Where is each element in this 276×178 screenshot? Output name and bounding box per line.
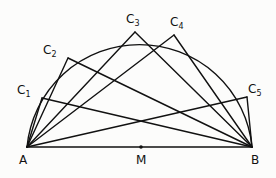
label-C2: C2 xyxy=(43,44,56,59)
chord-C5-B xyxy=(247,97,252,147)
semicircle-arc xyxy=(27,45,252,147)
label-C1: C1 xyxy=(17,84,30,99)
midpoint-M-dot xyxy=(139,145,143,149)
label-C3: C3 xyxy=(126,13,139,28)
label-C4: C4 xyxy=(170,16,183,31)
label-B: B xyxy=(251,154,259,166)
chord-C1-B xyxy=(42,98,252,147)
label-C5: C5 xyxy=(248,83,261,98)
semicircle-diagram: A M B C1 C2 C3 C4 C5 xyxy=(0,0,276,178)
label-A: A xyxy=(19,154,27,166)
chord-C4-B xyxy=(174,35,252,147)
label-M: M xyxy=(136,154,146,166)
chord-C3-B xyxy=(135,32,252,147)
